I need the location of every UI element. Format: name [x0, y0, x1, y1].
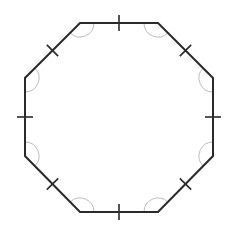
side-tick-marks	[17, 15, 221, 220]
octagon-figure	[0, 0, 239, 230]
octagon-diagram	[0, 0, 239, 230]
